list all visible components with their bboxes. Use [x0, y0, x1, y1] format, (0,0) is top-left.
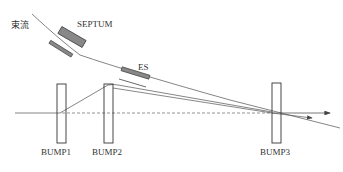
beam-label: 束流 [11, 19, 29, 30]
bump2-magnet [104, 84, 113, 143]
bump3-label: BUMP3 [260, 147, 291, 157]
bump1-magnet [57, 84, 66, 143]
bumped-orbit [60, 85, 272, 114]
septum-magnet [58, 27, 86, 48]
bump2-label: BUMP2 [92, 147, 122, 157]
es-label: ES [138, 62, 149, 72]
bump3-magnet [272, 83, 281, 143]
bump1-label: BUMP1 [41, 147, 71, 157]
extracted-beam-line [32, 14, 340, 128]
extraction-diagram: 束流 SEPTUM ES BUMP1 BUMP2 BUMP3 [0, 0, 343, 172]
septum-label: SEPTUM [77, 19, 113, 29]
septum-blade [49, 40, 73, 57]
